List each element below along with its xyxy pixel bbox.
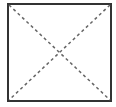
diagram-canvas <box>0 0 116 107</box>
